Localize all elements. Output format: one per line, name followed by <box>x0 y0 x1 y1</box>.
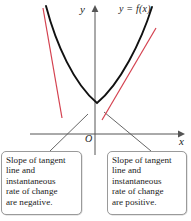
callout-left-line-2: line and <box>6 165 77 175</box>
callout-left-line-5: are negative. <box>6 197 77 207</box>
callout-left-line-3: instantaneous <box>6 176 77 186</box>
callout-left-line-4: rate of change <box>6 186 77 196</box>
function-curve <box>46 6 152 103</box>
callout-left-line-1: Slope of tangent <box>6 155 77 165</box>
y-axis-arrow-icon <box>92 5 99 12</box>
callout-right-line-4: rate of change <box>112 186 182 196</box>
callout-positive-slope: Slope of tangent line and instantaneous … <box>107 151 187 215</box>
tangent-line-right <box>102 28 156 120</box>
y-axis-label: y <box>80 4 85 15</box>
callout-right-line-3: instantaneous <box>112 176 182 186</box>
leader-line-right <box>104 112 151 151</box>
leader-line-left <box>50 114 88 151</box>
function-equation-label: y = f(x) <box>119 3 151 14</box>
tangent-line-figure: y x O y = f(x) Slope of tangent line and… <box>0 0 191 221</box>
callout-negative-slope: Slope of tangent line and instantaneous … <box>1 151 82 215</box>
callout-right-line-5: are positive. <box>112 197 182 207</box>
callout-right-line-2: line and <box>112 165 182 175</box>
tangent-line-left <box>43 8 62 118</box>
origin-label: O <box>85 134 92 144</box>
x-axis-label: x <box>179 136 184 147</box>
callout-right-line-1: Slope of tangent <box>112 155 182 165</box>
